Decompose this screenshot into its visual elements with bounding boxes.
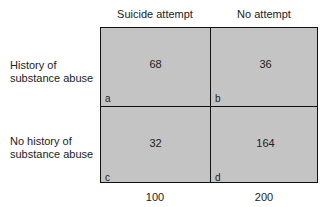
row-header-no-history: No history of substance abuse xyxy=(10,135,93,161)
contingency-table: 68 a 36 b 32 c 164 d xyxy=(100,27,318,183)
cell-c: 32 c xyxy=(101,107,210,185)
cell-a: 68 a xyxy=(101,28,210,106)
cell-value: 32 xyxy=(101,137,210,149)
divider-vertical xyxy=(210,28,211,182)
cell-value: 68 xyxy=(101,58,210,70)
column-header-suicide-attempt: Suicide attempt xyxy=(100,8,210,20)
cell-label: c xyxy=(105,172,110,183)
row-header-line: substance abuse xyxy=(10,148,93,161)
column-total-no-attempt: 200 xyxy=(209,191,319,203)
row-header-history: History of substance abuse xyxy=(10,59,93,85)
cell-value: 36 xyxy=(211,58,320,70)
cell-d: 164 d xyxy=(211,107,320,185)
row-header-line: History of xyxy=(10,59,93,72)
cell-b: 36 b xyxy=(211,28,320,106)
cell-label: a xyxy=(105,93,111,104)
row-header-line: substance abuse xyxy=(10,72,93,85)
cell-label: b xyxy=(215,93,221,104)
divider-horizontal xyxy=(101,106,317,107)
row-header-line: No history of xyxy=(10,135,93,148)
cell-label: d xyxy=(215,172,221,183)
column-total-suicide-attempt: 100 xyxy=(100,191,210,203)
column-header-no-attempt: No attempt xyxy=(209,8,319,20)
cell-value: 164 xyxy=(211,137,320,149)
